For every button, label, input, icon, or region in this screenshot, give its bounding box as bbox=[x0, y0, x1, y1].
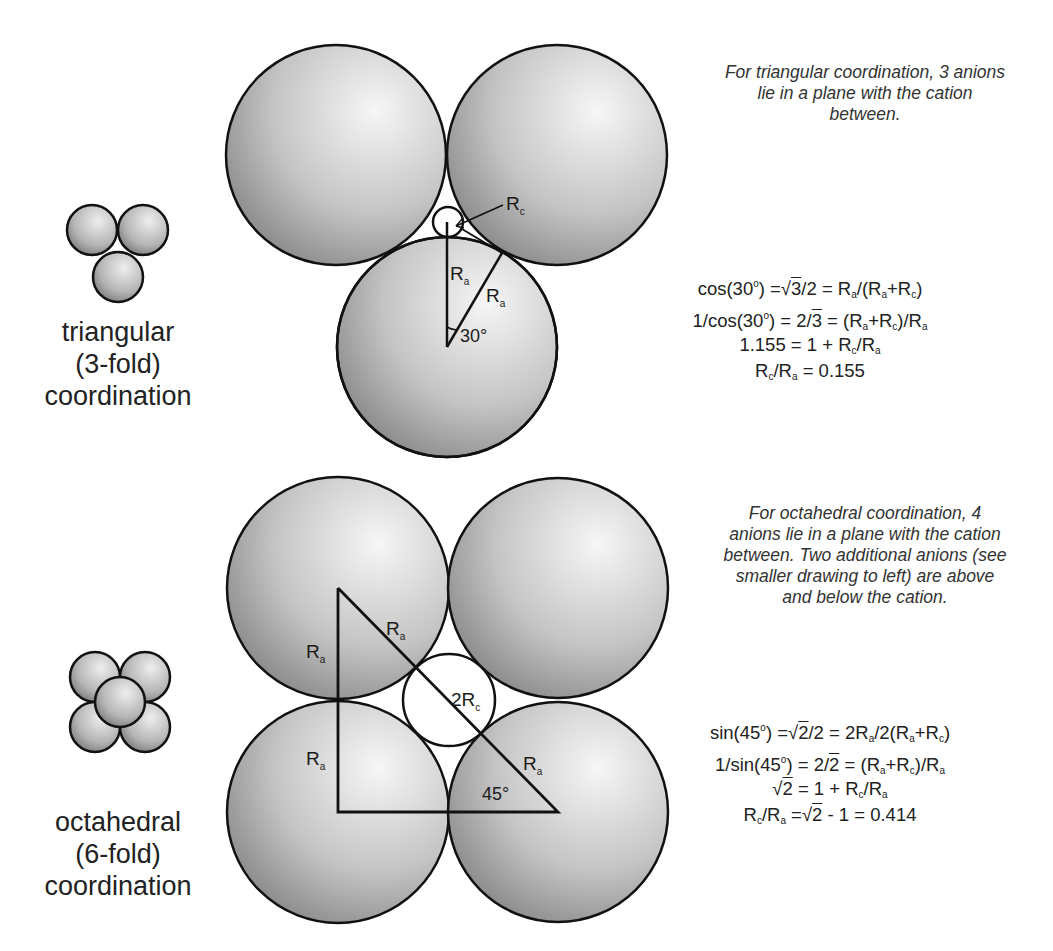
octahedral-diagram: Ra Ra 2Rc Ra Ra 45° bbox=[227, 477, 668, 923]
description-line: between. Two additional anions (see bbox=[690, 545, 1040, 566]
label-angle-45: 45° bbox=[482, 784, 509, 804]
equation-3: 1.155 = 1 + Rc/Ra bbox=[660, 332, 960, 358]
label-line: octahedral bbox=[0, 806, 236, 838]
label-line: coordination bbox=[0, 380, 236, 412]
description-line: lie in a plane with the cation bbox=[690, 83, 1040, 104]
label-line: coordination bbox=[0, 870, 236, 902]
description-line: smaller drawing to left) are above bbox=[690, 566, 1040, 587]
description-line: and below the cation. bbox=[690, 587, 1040, 608]
octahedral-description: For octahedral coordination, 4 anions li… bbox=[690, 503, 1040, 608]
label-angle-30: 30° bbox=[460, 326, 487, 346]
anion-upper-right bbox=[448, 478, 668, 698]
triangular-description: For triangular coordination, 3 anions li… bbox=[690, 62, 1040, 125]
triangular-model-icon bbox=[67, 205, 168, 302]
octahedral-model-icon bbox=[70, 652, 170, 752]
label-line: triangular bbox=[0, 316, 236, 348]
equation-1: sin(45o) =√2/2 = 2Ra/2(Ra+Rc) bbox=[675, 712, 985, 744]
equation-2: 1/cos(30o) = 2/3 = (Ra+Rc)/Ra bbox=[660, 300, 960, 332]
equation-4: Rc/Ra =√2 - 1 = 0.414 bbox=[675, 802, 985, 828]
label-line: (3-fold) bbox=[0, 348, 236, 380]
equation-1: cos(30o) =√3/2 = Ra/(Ra+Rc) bbox=[660, 268, 960, 300]
anion-upper-left bbox=[226, 45, 446, 265]
description-line: between. bbox=[690, 104, 1040, 125]
anion-upper-right bbox=[447, 45, 667, 265]
octahedral-label: octahedral (6-fold) coordination bbox=[0, 806, 236, 902]
description-line: For triangular coordination, 3 anions bbox=[690, 62, 1040, 83]
equation-3: √2 = 1 + Rc/Ra bbox=[675, 776, 985, 802]
equation-2: 1/sin(45o) = 2/2 = (Ra+Rc)/Ra bbox=[675, 744, 985, 776]
triangular-diagram: Rc Ra Ra 30° bbox=[226, 45, 667, 457]
description-line: For octahedral coordination, 4 bbox=[690, 503, 1040, 524]
equation-4: Rc/Ra = 0.155 bbox=[660, 358, 960, 384]
octahedral-equations: sin(45o) =√2/2 = 2Ra/2(Ra+Rc) 1/sin(45o)… bbox=[675, 712, 985, 828]
triangular-label: triangular (3-fold) coordination bbox=[0, 316, 236, 412]
description-line: anions lie in a plane with the cation bbox=[690, 524, 1040, 545]
triangular-equations: cos(30o) =√3/2 = Ra/(Ra+Rc) 1/cos(30o) =… bbox=[660, 268, 960, 384]
label-line: (6-fold) bbox=[0, 838, 236, 870]
